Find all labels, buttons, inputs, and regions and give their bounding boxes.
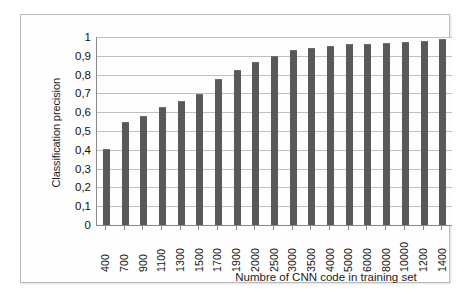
x-label-slot: 400 [96,232,115,272]
bar-slot [172,37,191,225]
y-axis-title: Classification precision [47,43,65,223]
x-tick-slot [432,226,451,231]
x-axis-tick-label: 3000 [286,232,298,272]
bar[interactable] [271,56,278,225]
bar[interactable] [364,44,371,225]
bar[interactable] [159,107,166,226]
x-label-slot: 3500 [302,232,321,272]
x-label-slot: 6000 [358,232,377,272]
bar[interactable] [421,41,428,225]
y-axis-title-text: Classification precision [50,78,62,187]
x-tick-slot [96,226,115,231]
x-axis-tick-mark [124,226,125,230]
x-axis-tick-label: 400 [99,232,111,272]
bar-slot [284,37,303,225]
x-axis-tick-mark [254,226,255,230]
bar-slot [433,37,452,225]
x-tick-slot [189,226,208,231]
bar-slot [247,37,266,225]
y-axis-tick-label: 0 [85,219,91,231]
bar[interactable] [196,94,203,225]
x-axis-tick-mark [236,226,237,230]
y-axis-tick-label: 0,3 [75,163,91,175]
x-tick-slot [414,226,433,231]
x-tick-slot [283,226,302,231]
y-axis-tick-label: 0,2 [75,181,91,193]
x-tick-slot [246,226,265,231]
plot-area [96,37,452,226]
bar[interactable] [252,62,259,225]
x-tick-slot [358,226,377,231]
bar[interactable] [215,79,222,225]
bar-slot [377,37,396,225]
bar[interactable] [327,46,334,225]
x-axis-tick-label: 700 [118,232,130,272]
bar[interactable] [308,48,315,225]
bar[interactable] [103,149,110,225]
x-axis-tick-label: 2500 [268,232,280,272]
bar-slot [303,37,322,225]
x-label-slot: 1900 [227,232,246,272]
bar[interactable] [234,70,241,225]
x-axis-tick-label: 1200 [417,232,429,272]
bar[interactable] [402,42,409,225]
x-axis-tick-mark [217,226,218,230]
bar[interactable] [290,50,297,225]
y-axis-tick-label: 0,1 [75,200,91,212]
bar[interactable] [122,122,129,225]
x-axis-tick-label: 1400 [436,232,448,272]
x-axis-tick-mark [310,226,311,230]
x-label-slot: 1200 [414,232,433,272]
x-axis-tick-mark [142,226,143,230]
x-axis-tick-mark [441,226,442,230]
chart-frame: Classification precision 00,10,20,30,40,… [20,14,450,283]
x-label-slot: 5000 [339,232,358,272]
x-label-slot: 1300 [171,232,190,272]
bar-slot [153,37,172,225]
x-axis-tick-label: 3500 [305,232,317,272]
bar[interactable] [178,101,185,225]
y-axis-tick-label: 0,8 [75,69,91,81]
y-axis-tick-label: 0,9 [75,50,91,62]
bar-slot [265,37,284,225]
x-axis-tick-label: 10000 [398,232,410,272]
bar[interactable] [439,39,446,225]
x-axis-tick-marks [96,226,451,231]
y-axis-tick-label: 0,5 [75,125,91,137]
x-axis-tick-mark [348,226,349,230]
x-label-slot: 10000 [395,232,414,272]
x-tick-slot [320,226,339,231]
bar[interactable] [383,43,390,225]
x-axis-title: Numbre of CNN code in training set [201,271,451,283]
x-tick-slot [339,226,358,231]
x-label-slot: 900 [133,232,152,272]
x-axis-tick-mark [161,226,162,230]
x-axis-tick-label: 8000 [380,232,392,272]
x-axis-tick-label: 1500 [193,232,205,272]
bar-slot [190,37,209,225]
bar[interactable] [140,116,147,225]
x-axis-tick-label: 4000 [324,232,336,272]
x-axis-tick-label: 1900 [230,232,242,272]
x-label-slot: 1700 [208,232,227,272]
x-axis-tick-mark [329,226,330,230]
bar-slot [97,37,116,225]
x-axis-tick-label: 6000 [361,232,373,272]
x-tick-slot [302,226,321,231]
x-axis-tick-mark [273,226,274,230]
y-axis-tick-label: 1 [85,31,91,43]
x-tick-slot [395,226,414,231]
y-axis-tick-labels: 00,10,20,30,40,50,60,70,80,91 [65,33,94,229]
x-label-slot: 8000 [376,232,395,272]
x-label-slot: 4000 [320,232,339,272]
bar[interactable] [346,44,353,225]
x-tick-slot [264,226,283,231]
x-axis-tick-mark [423,226,424,230]
x-tick-slot [208,226,227,231]
x-axis-tick-mark [366,226,367,230]
bar-series [97,37,452,225]
x-axis-tick-label: 1100 [155,232,167,272]
x-axis-tick-labels: 4007009001100130015001700190020002500300… [96,232,451,272]
x-axis-tick-mark [198,226,199,230]
x-axis-tick-label: 1300 [174,232,186,272]
